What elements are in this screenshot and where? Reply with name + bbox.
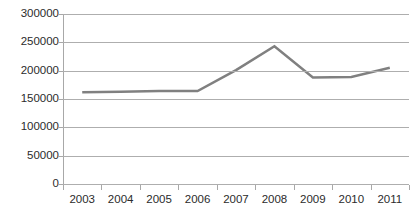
x-axis-labels: 200320042005200620072008200920102011	[63, 192, 409, 210]
x-axis-tick-mark	[140, 185, 141, 190]
x-axis-tick-label: 2010	[332, 192, 370, 206]
x-axis-tick-mark	[409, 185, 410, 190]
gridline-150000	[63, 99, 409, 100]
x-axis-tick-label: 2006	[178, 192, 216, 206]
y-axis-tick-mark	[58, 156, 63, 157]
gridline-250000	[63, 42, 409, 43]
x-axis-tick-mark	[332, 185, 333, 190]
x-axis-tick-mark	[217, 185, 218, 190]
line-chart: 300000250000200000150000100000500000 200…	[0, 0, 417, 216]
y-axis-tick-label: 300000	[3, 8, 59, 19]
x-axis-tick-label: 2009	[294, 192, 332, 206]
y-axis-tick-label: 0	[3, 178, 59, 189]
gridline-50000	[63, 156, 409, 157]
gridline-100000	[63, 127, 409, 128]
plot-area	[63, 14, 409, 184]
y-axis-labels: 300000250000200000150000100000500000	[0, 0, 59, 216]
y-axis-tick-mark	[58, 14, 63, 15]
y-axis-tick-mark	[58, 71, 63, 72]
y-axis-tick-label: 50000	[3, 150, 59, 161]
x-axis-tick-mark	[371, 185, 372, 190]
x-axis-tick-label: 2008	[255, 192, 293, 206]
x-axis-tick-label: 2003	[63, 192, 101, 206]
x-axis-tick-label: 2007	[217, 192, 255, 206]
x-axis-tick-mark	[178, 185, 179, 190]
x-axis-tick-mark	[255, 185, 256, 190]
y-axis-tick-mark	[58, 127, 63, 128]
y-axis-tick-mark	[58, 42, 63, 43]
x-axis-tick-mark	[294, 185, 295, 190]
x-axis-tick-mark	[63, 185, 64, 190]
gridline-0	[63, 184, 409, 185]
x-axis-tick-mark	[101, 185, 102, 190]
gridline-200000	[63, 71, 409, 72]
y-axis-tick-label: 200000	[3, 65, 59, 76]
x-axis-tick-label: 2004	[101, 192, 139, 206]
chart-title	[0, 0, 417, 3]
y-axis-tick-label: 250000	[3, 36, 59, 47]
y-axis-tick-label: 100000	[3, 121, 59, 132]
y-axis-tick-mark	[58, 99, 63, 100]
x-axis-tick-label: 2011	[371, 192, 409, 206]
y-axis-tick-label: 150000	[3, 93, 59, 104]
x-axis-tick-label: 2005	[140, 192, 178, 206]
gridline-300000	[63, 14, 409, 15]
